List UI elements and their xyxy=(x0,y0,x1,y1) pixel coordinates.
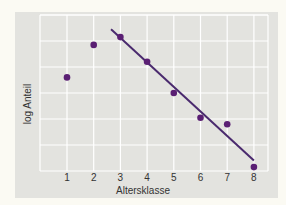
x-tick-label: 1 xyxy=(64,172,70,183)
grid-lines xyxy=(40,15,268,171)
x-tick-label: 5 xyxy=(171,172,177,183)
y-axis-label: log Anteil xyxy=(22,84,33,125)
data-point xyxy=(117,34,124,41)
data-point xyxy=(90,42,97,49)
data-point xyxy=(197,114,204,121)
regression-line xyxy=(111,29,254,160)
plot-area xyxy=(0,0,286,205)
data-point xyxy=(251,164,258,171)
data-point xyxy=(64,74,71,81)
data-points xyxy=(64,34,257,171)
x-tick-label: 3 xyxy=(118,172,124,183)
data-point xyxy=(224,121,231,128)
x-tick-label: 4 xyxy=(144,172,150,183)
x-tick-label: 2 xyxy=(91,172,97,183)
data-point xyxy=(171,90,178,97)
x-axis-label: Altersklasse xyxy=(116,185,170,196)
data-point xyxy=(144,59,151,66)
x-tick-label: 8 xyxy=(251,172,257,183)
x-tick-label: 6 xyxy=(198,172,204,183)
x-tick-label: 7 xyxy=(224,172,230,183)
